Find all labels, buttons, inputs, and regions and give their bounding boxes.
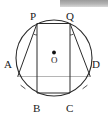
vertex-label-q: Q [66, 11, 74, 22]
center-label-o: O [51, 56, 58, 65]
tick-arc-cd-icon [83, 85, 88, 89]
geometry-figure: A B C D P Q O [0, 0, 108, 118]
vertex-label-a: A [4, 59, 12, 70]
tick-arc-ab-icon [21, 85, 26, 89]
vertex-label-d: D [92, 59, 100, 70]
vertex-label-p: P [30, 11, 36, 22]
center-point-dot-icon [52, 51, 56, 55]
angle-mark-q-icon [70, 34, 73, 35]
angle-mark-p-icon [34, 34, 37, 35]
chord-qd [70, 24, 90, 77]
vertex-label-b: B [33, 103, 40, 114]
top-bar-artifact [60, 0, 108, 7]
vertex-label-c: C [66, 103, 73, 114]
